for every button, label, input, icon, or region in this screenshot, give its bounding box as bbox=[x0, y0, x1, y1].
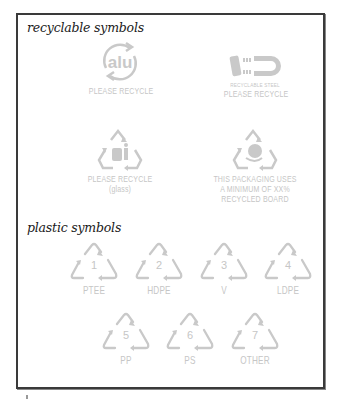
resin-label: HDPE bbox=[137, 284, 181, 296]
recycle-triangle-icon: 6 bbox=[164, 312, 216, 354]
resin-label: PTEE bbox=[72, 284, 116, 296]
board-caption-line3: RECYCLED BOARD bbox=[212, 194, 298, 204]
recycle-triangle-icon: 4 bbox=[262, 242, 314, 284]
resin-code-number: 2 bbox=[156, 259, 162, 271]
recycle-triangle-icon: 1 bbox=[68, 242, 120, 284]
plastic-symbol-6: 6PS bbox=[162, 312, 218, 366]
recyclable-section-title: recyclable symbols bbox=[27, 20, 144, 35]
board-caption-line2: A MINIMUM OF XX% bbox=[212, 184, 298, 194]
plastic-symbol-5: 5PP bbox=[98, 312, 154, 366]
steel-caption: PLEASE RECYCLE bbox=[224, 89, 286, 99]
stray-mark bbox=[26, 395, 28, 399]
recyclable-symbol-board: THIS PACKAGING USES A MINIMUM OF XX% REC… bbox=[200, 128, 310, 204]
board-caption-line1: THIS PACKAGING USES bbox=[212, 174, 298, 184]
plastic-symbol-2: 2HDPE bbox=[131, 242, 187, 296]
resin-label: V bbox=[202, 284, 246, 296]
resin-code-number: 3 bbox=[221, 259, 227, 271]
resin-code-number: 1 bbox=[91, 259, 97, 271]
steel-small-caption: RECYCLABLE STEEL bbox=[224, 82, 286, 89]
resin-label: PS bbox=[168, 354, 212, 366]
plastic-symbol-4: 4LDPE bbox=[260, 242, 316, 296]
aluminium-recycle-icon: alu bbox=[96, 38, 144, 86]
glass-recycle-icon bbox=[93, 128, 147, 174]
recycle-triangle-icon: 5 bbox=[100, 312, 152, 354]
resin-code-number: 6 bbox=[187, 329, 193, 341]
plastic-symbol-7: 7OTHER bbox=[227, 312, 283, 366]
resin-code-number: 5 bbox=[123, 329, 129, 341]
resin-label: OTHER bbox=[233, 354, 277, 366]
resin-code-number: 7 bbox=[252, 329, 258, 341]
recyclable-symbol-glass: PLEASE RECYCLE (glass) bbox=[75, 128, 165, 194]
recycle-triangle-icon: 3 bbox=[198, 242, 250, 284]
recycle-triangle-icon: 7 bbox=[229, 312, 281, 354]
plastic-symbol-1: 1PTEE bbox=[66, 242, 122, 296]
glass-caption-line1: PLEASE RECYCLE bbox=[85, 174, 155, 184]
recycle-triangle-icon: 2 bbox=[133, 242, 185, 284]
glass-caption-line2: (glass) bbox=[85, 184, 155, 194]
recyclable-symbol-steel: RECYCLABLE STEEL PLEASE RECYCLE bbox=[215, 50, 295, 99]
resin-label: PP bbox=[104, 354, 148, 366]
resin-code-number: 4 bbox=[285, 259, 291, 271]
plastic-symbol-3: 3V bbox=[196, 242, 252, 296]
plastic-section-title: plastic symbols bbox=[27, 220, 121, 235]
resin-label: LDPE bbox=[266, 284, 310, 296]
steel-magnet-icon bbox=[225, 50, 285, 80]
svg-text:alu: alu bbox=[108, 53, 133, 72]
recyclable-symbol-alu: alu PLEASE RECYCLE bbox=[80, 38, 160, 96]
recycled-board-icon bbox=[228, 128, 282, 174]
alu-caption: PLEASE RECYCLE bbox=[89, 86, 151, 96]
